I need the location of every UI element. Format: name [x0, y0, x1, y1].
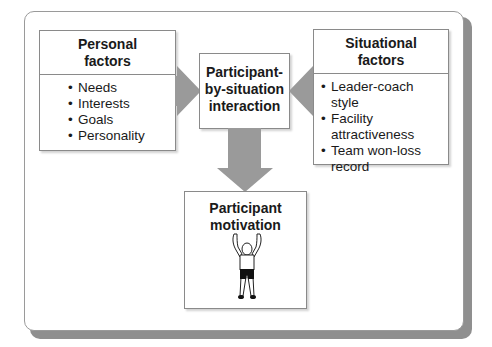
title-line: Participant- [200, 64, 289, 81]
title-line: factors [40, 53, 175, 70]
person-arms-raised-icon [230, 233, 264, 301]
list-item: Team won-loss record [321, 143, 444, 175]
list-item: Needs [68, 80, 175, 96]
list-item: Personality [68, 128, 175, 144]
personal-factors-title: Personal factors [40, 31, 175, 75]
title-line: by-situation [200, 81, 289, 98]
list-item: Goals [68, 112, 175, 128]
motivation-title: Participant motivation [185, 200, 306, 234]
title-line: motivation [185, 217, 306, 234]
interaction-box: Participant- by-situation interaction [199, 53, 290, 129]
arrow-left-icon [289, 66, 315, 116]
title-line: factors [314, 52, 448, 69]
personal-factors-box: Personal factors Needs Interests Goals P… [39, 30, 176, 151]
situational-factors-title: Situational factors [314, 30, 448, 74]
list-item: Facility attractiveness [321, 111, 444, 143]
motivation-box: Participant motivation [184, 191, 307, 309]
arrow-right-icon [175, 66, 201, 116]
title-line: interaction [200, 98, 289, 115]
title-line: Personal [40, 36, 175, 53]
situational-factors-list: Leader-coach style Facility attractivene… [314, 74, 448, 175]
list-item: Leader-coach style [321, 79, 444, 111]
title-line: Participant [185, 200, 306, 217]
list-item: Interests [68, 96, 175, 112]
personal-factors-list: Needs Interests Goals Personality [40, 75, 175, 144]
title-line: Situational [314, 35, 448, 52]
situational-factors-box: Situational factors Leader-coach style F… [313, 29, 449, 165]
interaction-title: Participant- by-situation interaction [200, 64, 289, 115]
arrow-down-icon [215, 128, 275, 192]
